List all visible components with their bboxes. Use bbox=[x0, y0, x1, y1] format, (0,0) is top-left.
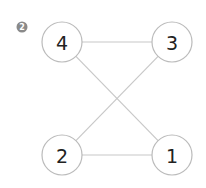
node-label: 3 bbox=[166, 32, 178, 54]
node-1: 1 bbox=[152, 135, 192, 175]
node-3: 3 bbox=[152, 22, 192, 62]
badge-label: 2 bbox=[19, 23, 25, 32]
node-label: 4 bbox=[56, 32, 68, 54]
edges bbox=[76, 42, 158, 155]
node-label: 1 bbox=[166, 145, 178, 167]
badge: 2 bbox=[17, 22, 28, 33]
node-4: 4 bbox=[42, 22, 82, 62]
node-label: 2 bbox=[56, 145, 68, 167]
node-2: 2 bbox=[42, 135, 82, 175]
graph-diagram: 2 1234 bbox=[0, 0, 206, 188]
